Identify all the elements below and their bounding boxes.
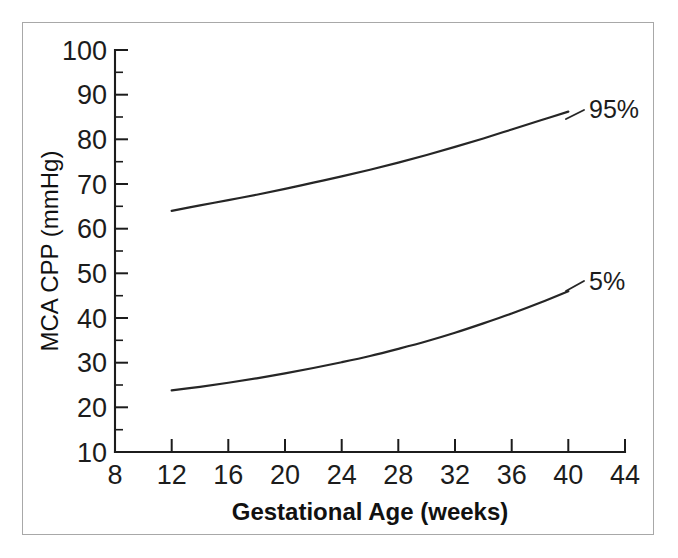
leader-line-5 [566, 281, 584, 291]
y-tick-label: 10 [77, 438, 107, 468]
series-label-5: 5% [589, 267, 625, 295]
y-axis-tick-labels: 100 90 80 70 60 50 40 30 20 10 [62, 36, 107, 468]
y-tick-label: 80 [77, 125, 107, 155]
x-tick-label: 16 [213, 460, 243, 490]
y-tick-label: 70 [77, 170, 107, 200]
x-axis-title: Gestational Age (weeks) [232, 498, 509, 525]
y-tick-label: 30 [77, 348, 107, 378]
series-label-95: 95% [589, 95, 639, 123]
x-axis-major-ticks [115, 439, 625, 452]
x-axis-tick-labels: 8 12 16 20 24 28 32 36 40 44 [107, 460, 640, 490]
x-tick-label: 8 [107, 460, 122, 490]
y-tick-label: 60 [77, 214, 107, 244]
axis-spines [115, 50, 625, 452]
annotation-leaders [566, 110, 584, 291]
x-tick-label: 24 [327, 460, 357, 490]
y-axis-title: MCA CPP (mmHg) [36, 151, 63, 352]
x-tick-label: 32 [440, 460, 470, 490]
curve-95th-percentile [172, 112, 569, 211]
x-tick-label: 44 [610, 460, 640, 490]
x-tick-label: 28 [383, 460, 413, 490]
chart-plot-area: 100 90 80 70 60 50 40 30 20 10 8 12 16 2… [0, 0, 678, 558]
data-curves [172, 112, 569, 391]
x-tick-label: 36 [497, 460, 527, 490]
y-tick-label: 90 [77, 80, 107, 110]
y-tick-label: 20 [77, 393, 107, 423]
mca-cpp-gestational-age-chart: 100 90 80 70 60 50 40 30 20 10 8 12 16 2… [0, 0, 678, 558]
x-tick-label: 12 [157, 460, 187, 490]
x-tick-label: 40 [553, 460, 583, 490]
y-tick-label: 40 [77, 304, 107, 334]
y-axis-minor-ticks [115, 72, 123, 429]
y-tick-label: 100 [62, 36, 107, 66]
curve-5th-percentile [172, 291, 569, 390]
x-tick-label: 20 [270, 460, 300, 490]
y-tick-label: 50 [77, 259, 107, 289]
